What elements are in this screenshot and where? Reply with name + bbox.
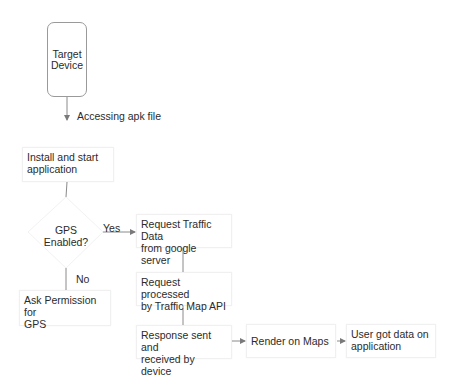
processed-line2: by Traffic Map API — [141, 300, 227, 312]
ask-permission-line2: GPS — [24, 318, 106, 330]
request-traffic-line1: Request Traffic Data — [141, 218, 227, 242]
no-label: No — [76, 273, 89, 285]
user-line2: application — [351, 340, 431, 352]
render-node: Render on Maps — [246, 324, 336, 358]
yes-label: Yes — [103, 222, 120, 234]
install-line2: application — [27, 163, 109, 175]
gps-decision-node: GPS Enabled? — [36, 224, 96, 248]
render-label: Render on Maps — [251, 335, 329, 347]
accessing-apk-label: Accessing apk file — [77, 110, 161, 122]
target-device-node: Target Device — [47, 22, 87, 97]
response-line2: received by device — [141, 353, 227, 377]
request-traffic-line2: from google server — [141, 242, 227, 266]
ask-permission-node: Ask Permission for GPS — [19, 290, 111, 326]
ask-permission-line1: Ask Permission for — [24, 294, 106, 318]
user-line1: User got data on — [351, 328, 431, 340]
target-device-line2: Device — [51, 60, 83, 71]
install-line1: Install and start — [27, 151, 109, 163]
response-line1: Response sent and — [141, 329, 227, 353]
request-traffic-node: Request Traffic Data from google server — [136, 214, 232, 248]
processed-line1: Request processed — [141, 276, 227, 300]
request-processed-node: Request processed by Traffic Map API — [136, 272, 232, 306]
gps-line2: Enabled? — [36, 236, 96, 248]
response-node: Response sent and received by device — [136, 325, 232, 359]
gps-line1: GPS — [36, 224, 96, 236]
target-device-line1: Target — [51, 49, 83, 60]
user-got-data-node: User got data on application — [346, 324, 436, 358]
install-node: Install and start application — [22, 147, 114, 182]
